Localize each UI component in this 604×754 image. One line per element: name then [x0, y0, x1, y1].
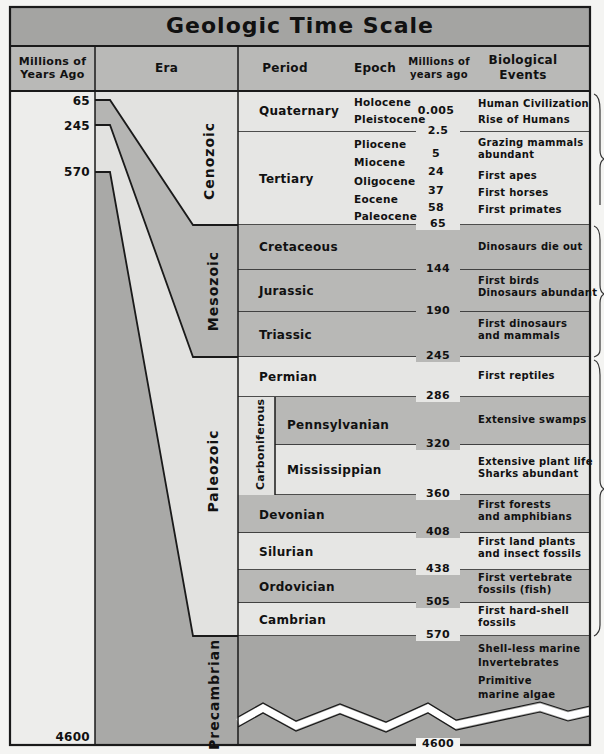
biological-events-permian: First reptiles: [478, 370, 555, 382]
biological-events-precambrian: Shell-less marineInvertebratesPrimitivem…: [478, 642, 580, 702]
event-line: First dinosaurs: [478, 318, 567, 330]
period-triassic: Triassic: [259, 328, 312, 342]
event-line: Grazing mammals: [478, 137, 584, 149]
epoch-pleistocene: Pleistocene: [354, 113, 426, 125]
boundary-label-320: 320: [416, 438, 460, 450]
event-line: Human Civilization: [478, 96, 589, 112]
event-line: Rise of Humans: [478, 112, 589, 128]
event-line: and amphibians: [478, 511, 572, 523]
epoch-number-37: 37: [416, 184, 456, 197]
event-line: First forests: [478, 499, 572, 511]
epoch-paleocene: Paleocene: [354, 210, 417, 222]
boundary-label-570: 570: [416, 629, 460, 641]
biological-events-silurian: First land plantsand insect fossils: [478, 536, 581, 560]
biological-events-mississippian: Extensive plant lifeSharks abundant: [478, 456, 593, 480]
era-label-precambrian: Precambrian: [206, 640, 224, 750]
boundary-label-438: 438: [416, 563, 460, 575]
header-period: Period: [255, 62, 315, 75]
header-line: Biological: [478, 53, 568, 68]
boundary-label-4600: 4600: [416, 738, 460, 750]
era-label-cenozoic: Cenozoic: [201, 111, 219, 211]
boundary-label-144: 144: [416, 263, 460, 275]
boundary-label-245: 245: [416, 350, 460, 362]
epoch-pliocene: Pliocene: [354, 138, 406, 150]
event-line: Dinosaurs abundant: [478, 287, 597, 299]
event-line: Extensive swamps: [478, 414, 586, 426]
biological-events-triassic: First dinosaursand mammals: [478, 318, 567, 342]
epoch-eocene: Eocene: [354, 193, 398, 205]
event-line: Primitive: [478, 674, 580, 688]
event-line: First vertebrate: [478, 572, 572, 584]
epoch-number-24: 24: [416, 165, 456, 178]
event-line: Dinosaurs die out: [478, 241, 583, 253]
period-group-carboniferous: Carboniferous: [254, 400, 268, 490]
biological-events-quaternary: Human CivilizationRise of Humans: [478, 96, 589, 128]
event-line: First land plants: [478, 536, 581, 548]
boundary-label-408: 408: [416, 526, 460, 538]
epoch-number-58: 58: [416, 201, 456, 214]
header-line: Events: [478, 68, 568, 83]
event-line: Extensive plant life: [478, 456, 593, 468]
boundary-label-2.5: 2.5: [416, 125, 460, 137]
event-line: First birds: [478, 275, 597, 287]
scale-label-570: 570: [10, 165, 90, 179]
period-pennsylvanian: Pennsylvanian: [287, 418, 389, 432]
epoch-number-0.005: 0.005: [416, 104, 456, 117]
boundary-label-190: 190: [416, 305, 460, 317]
period-cretaceous: Cretaceous: [259, 240, 338, 254]
biological-events-jurassic: First birdsDinosaurs abundant: [478, 275, 597, 299]
epoch-holocene: Holocene: [354, 96, 411, 108]
header-millions-years-ago: Millions of Years Ago: [10, 55, 95, 81]
period-mississippian: Mississippian: [287, 463, 382, 477]
boundary-label-286: 286: [416, 390, 460, 402]
biological-events-cretaceous: Dinosaurs die out: [478, 241, 583, 253]
era-label-paleozoic: Paleozoic: [205, 421, 223, 521]
epoch-oligocene: Oligocene: [354, 175, 416, 187]
header-line: Millions of: [408, 55, 470, 68]
header-epoch: Epoch: [345, 62, 405, 75]
epoch-miocene: Miocene: [354, 156, 405, 168]
header-biological-events: Biological Events: [478, 53, 568, 83]
brace-icon: [594, 94, 604, 205]
period-permian: Permian: [259, 370, 317, 384]
biological-events-ordovician: First vertebratefossils (fish): [478, 572, 572, 596]
left-scale-column: [10, 91, 95, 745]
scale-label-245: 245: [10, 119, 90, 133]
header-line: Years Ago: [10, 68, 95, 81]
event-line: and mammals: [478, 330, 567, 342]
boundary-label-65: 65: [416, 218, 460, 230]
header-line: years ago: [408, 68, 470, 81]
header-line: Millions of: [10, 55, 95, 68]
event-line: marine algae: [478, 688, 580, 702]
brace-icon: [594, 360, 604, 636]
period-ordovician: Ordovician: [259, 580, 335, 594]
event-line: Invertebrates: [478, 656, 580, 670]
period-devonian: Devonian: [259, 508, 325, 522]
era-label-mesozoic: Mesozoic: [205, 241, 223, 341]
page-title: Geologic Time Scale: [10, 13, 590, 38]
boundary-label-505: 505: [416, 596, 460, 608]
event-line: First primates: [478, 201, 584, 218]
event-line: First hard-shell: [478, 605, 569, 617]
event-line: First apes: [478, 167, 584, 184]
biological-events-cambrian: First hard-shellfossils: [478, 605, 569, 629]
event-line: fossils (fish): [478, 584, 572, 596]
biological-events-pennsylvanian: Extensive swamps: [478, 414, 586, 426]
period-tertiary: Tertiary: [259, 172, 314, 186]
event-line: Sharks abundant: [478, 468, 593, 480]
scale-label-4600: 4600: [10, 730, 90, 744]
event-line: First reptiles: [478, 370, 555, 382]
header-millions-years-ago-small: Millions of years ago: [408, 55, 470, 81]
event-line: and insect fossils: [478, 548, 581, 560]
period-silurian: Silurian: [259, 545, 313, 559]
epoch-number-5: 5: [416, 147, 456, 160]
biological-events-tertiary: Grazing mammalsabundant First apesFirst …: [478, 137, 584, 218]
event-line: Shell-less marine: [478, 642, 580, 656]
boundary-label-360: 360: [416, 488, 460, 500]
era-braces: [594, 94, 604, 636]
period-cambrian: Cambrian: [259, 613, 326, 627]
event-line: abundant: [478, 149, 584, 161]
scale-label-65: 65: [10, 94, 90, 108]
header-era: Era: [95, 62, 238, 75]
biological-events-devonian: First forestsand amphibians: [478, 499, 572, 523]
